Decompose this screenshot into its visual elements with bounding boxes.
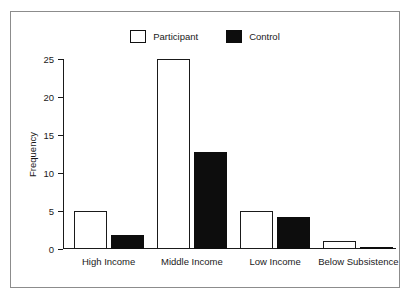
y-tick-mark: 0 bbox=[58, 249, 63, 250]
x-axis-category-label: Low Income bbox=[250, 257, 301, 267]
plot-area: 0510152025 bbox=[63, 59, 396, 249]
legend-swatch-control-icon bbox=[226, 30, 242, 43]
legend-label-participant: Participant bbox=[153, 32, 198, 42]
bar-group bbox=[74, 59, 144, 249]
y-axis-title: Frequency bbox=[25, 59, 39, 249]
y-tick-label: 5 bbox=[49, 207, 54, 217]
bar-participant bbox=[157, 59, 190, 249]
bar-control bbox=[360, 247, 393, 249]
y-tick-label: 15 bbox=[43, 131, 54, 141]
y-tick-label: 0 bbox=[49, 245, 54, 255]
chart-figure-frame: Participant Control Frequency 0510152025… bbox=[10, 11, 400, 288]
bar-participant bbox=[240, 211, 273, 249]
chart-legend: Participant Control bbox=[11, 30, 399, 43]
bar-group bbox=[157, 59, 227, 249]
x-axis-category-label: Below Subsistence bbox=[318, 257, 398, 267]
legend-label-control: Control bbox=[249, 32, 280, 42]
bar-groups bbox=[63, 59, 396, 249]
y-axis-title-label: Frequency bbox=[27, 132, 38, 177]
y-tick-label: 10 bbox=[43, 169, 54, 179]
y-tick-label: 20 bbox=[43, 93, 54, 103]
x-axis-category-label: High Income bbox=[82, 257, 135, 267]
bar-control bbox=[277, 217, 310, 249]
bar-group bbox=[240, 59, 310, 249]
y-tick-label: 25 bbox=[43, 55, 54, 65]
bar-participant bbox=[74, 211, 107, 249]
x-axis-category-label: Middle Income bbox=[161, 257, 223, 267]
x-axis-category-labels: High IncomeMiddle IncomeLow IncomeBelow … bbox=[63, 257, 396, 271]
legend-entry-control: Control bbox=[226, 30, 280, 43]
legend-entry-participant: Participant bbox=[130, 30, 198, 43]
bar-group bbox=[323, 59, 393, 249]
bar-control bbox=[111, 235, 144, 249]
bar-control bbox=[194, 152, 227, 249]
legend-swatch-participant-icon bbox=[130, 30, 146, 43]
bar-participant bbox=[323, 241, 356, 249]
